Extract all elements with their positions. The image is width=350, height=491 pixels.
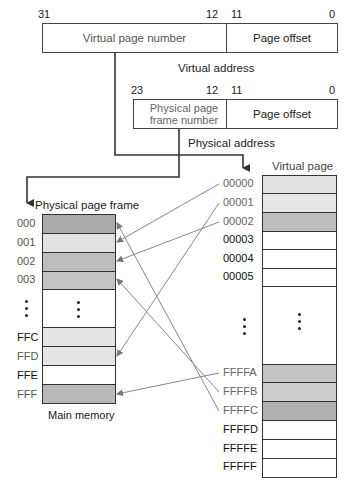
physical-page-frame-title: Physical page frame <box>35 199 139 211</box>
frame-label-003: 003 <box>17 273 35 285</box>
frame-row-ffe <box>43 366 115 385</box>
frame-row-002 <box>43 253 115 272</box>
vpage-row-00001 <box>263 194 336 213</box>
frame-row-003 <box>43 272 115 290</box>
frame-row-ffd <box>43 347 115 366</box>
virtual-page-title: Virtual page <box>272 160 333 172</box>
frame-label-ffe: FFE <box>17 369 38 381</box>
vpage-label-ffffe: FFFFE <box>223 442 257 454</box>
vpage-row-ffffa <box>263 365 336 383</box>
vpage-ellipsis-dots <box>298 313 301 330</box>
vpage-row-00003 <box>263 232 336 250</box>
frame-ellipsis-dots <box>77 301 80 318</box>
frame-row-ffc <box>43 328 115 347</box>
vpage-row-ffffd <box>263 421 336 440</box>
physical-memory-table <box>42 214 116 404</box>
frame-row-001 <box>43 234 115 253</box>
vpage-label-ffffd: FFFFD <box>223 423 258 435</box>
vpage-row-00005 <box>263 269 336 287</box>
vpage-label-ffffa: FFFFA <box>223 366 257 378</box>
vpage-row-00004 <box>263 250 336 269</box>
vpage-label-ffffb: FFFFB <box>223 385 257 397</box>
vpage-row-00002 <box>263 213 336 232</box>
vpage-label-ffffc: FFFFC <box>223 404 258 416</box>
frame-row-000 <box>43 215 115 234</box>
frame-label-000: 000 <box>17 217 35 229</box>
vpage-label-00005: 00005 <box>223 270 254 282</box>
vpage-row-ffffe <box>263 440 336 459</box>
frame-label-ffd: FFD <box>17 350 38 362</box>
vpage-label-00002: 00002 <box>223 215 254 227</box>
vpage-row-ffffb <box>263 383 336 402</box>
frame-label-ellipsis <box>25 300 28 317</box>
vpage-label-fffff: FFFFF <box>223 460 257 472</box>
frame-row-fff <box>43 385 115 403</box>
vpage-label-00003: 00003 <box>223 233 254 245</box>
virtual-page-table <box>262 175 337 478</box>
frame-label-001: 001 <box>17 236 35 248</box>
frame-label-002: 002 <box>17 255 35 267</box>
frame-label-fff: FFF <box>17 388 37 400</box>
vpage-label-ellipsis <box>243 318 246 335</box>
vpage-row-ffffc <box>263 402 336 421</box>
vpage-label-00001: 00001 <box>223 196 254 208</box>
vpage-label-00000: 00000 <box>223 177 254 189</box>
vpage-row-00000 <box>263 176 336 194</box>
vpage-label-00004: 00004 <box>223 252 254 264</box>
main-memory-caption: Main memory <box>48 409 115 421</box>
vpage-row-fffff <box>263 459 336 477</box>
frame-label-ffc: FFC <box>17 331 38 343</box>
